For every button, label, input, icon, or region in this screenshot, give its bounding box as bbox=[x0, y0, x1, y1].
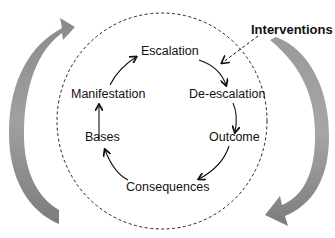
diagram: Escalation De-escalation Outcome Consequ… bbox=[0, 0, 335, 238]
edge-outcome-to-consequences bbox=[199, 146, 229, 179]
outer-arrow-right bbox=[265, 37, 329, 226]
edge-manifestation-to-escalation bbox=[110, 57, 136, 85]
interventions-label: Interventions bbox=[251, 23, 333, 36]
node-manifestation: Manifestation bbox=[71, 88, 145, 101]
node-escalation: Escalation bbox=[141, 45, 199, 58]
outer-arrow-left bbox=[9, 18, 75, 224]
node-outcome: Outcome bbox=[209, 131, 260, 144]
node-de-escalation: De-escalation bbox=[189, 88, 265, 101]
node-consequences: Consequences bbox=[126, 181, 209, 194]
edge-de-escalation-to-outcome bbox=[233, 103, 236, 132]
edge-escalation-to-de-escalation bbox=[199, 60, 226, 85]
edge-consequences-to-bases bbox=[105, 150, 128, 180]
interventions-arrow bbox=[222, 36, 258, 63]
node-bases: Bases bbox=[85, 131, 120, 144]
